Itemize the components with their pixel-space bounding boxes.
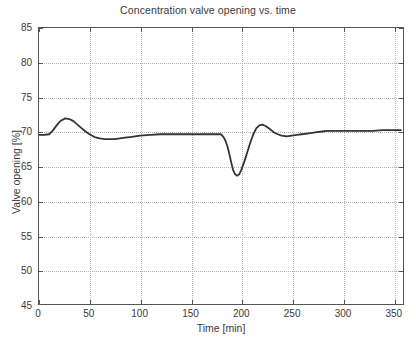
y-tick-label: 50 (2, 265, 32, 276)
x-tick-label: 300 (323, 308, 363, 319)
x-tick-label: 350 (374, 308, 414, 319)
x-tick-label: 100 (120, 308, 160, 319)
y-tick-label: 80 (2, 56, 32, 67)
plot-area (38, 27, 404, 305)
x-tick-label: 50 (69, 308, 109, 319)
chart-title: Concentration valve opening vs. time (0, 4, 416, 16)
x-tick-label: 0 (18, 308, 58, 319)
data-series-line (39, 28, 403, 304)
x-axis-label: Time [min] (38, 322, 404, 334)
y-tick-label: 85 (2, 22, 32, 33)
series-line (39, 118, 401, 175)
x-tick-label: 250 (272, 308, 312, 319)
y-axis-label: Valve opening [%] (10, 102, 22, 242)
x-tick-label: 200 (221, 308, 261, 319)
x-tick-label: 150 (171, 308, 211, 319)
y-tick-label: 75 (2, 91, 32, 102)
y-tick-label: 45 (2, 300, 32, 311)
chart-figure: Concentration valve opening vs. time 455… (0, 0, 416, 342)
